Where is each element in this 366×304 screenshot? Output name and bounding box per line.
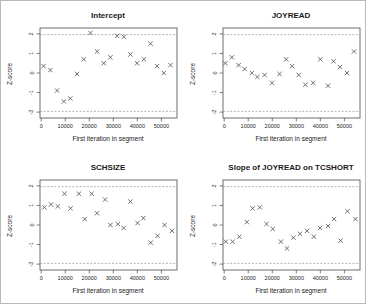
x-axis-label: First iteration in segment	[255, 135, 326, 143]
svg-text:10000: 10000	[58, 123, 73, 129]
svg-text:50000: 50000	[337, 123, 352, 129]
plot-title: JOYREAD	[272, 11, 311, 20]
svg-text:10000: 10000	[241, 275, 256, 281]
svg-text:-2: -2	[212, 262, 218, 267]
plot-frame	[40, 180, 177, 270]
svg-text:2: 2	[29, 32, 35, 35]
svg-text:2: 2	[212, 32, 218, 35]
data-points	[42, 192, 173, 245]
svg-text:-2: -2	[212, 110, 218, 115]
svg-text:0: 0	[40, 275, 43, 281]
data-points	[224, 205, 357, 250]
y-axis-ticks: -2-1012	[212, 32, 224, 114]
svg-text:0: 0	[29, 223, 35, 226]
plot-grid: 01000020000300004000050000 -2-1012 Inter…	[1, 1, 365, 304]
svg-text:1: 1	[29, 52, 35, 55]
svg-text:-1: -1	[212, 90, 218, 95]
svg-text:50000: 50000	[154, 275, 169, 281]
svg-text:1: 1	[29, 204, 35, 207]
svg-text:0: 0	[212, 71, 218, 74]
svg-text:50000: 50000	[337, 275, 352, 281]
plot-schsize: 01000020000300004000050000 -2-1012 SCHSI…	[1, 153, 184, 304]
critical-value-lines	[223, 187, 360, 264]
y-axis-ticks: -2-1012	[29, 32, 41, 114]
plot-frame	[223, 180, 360, 270]
plot-title: Intercept	[91, 11, 125, 20]
x-axis-ticks: 01000020000300004000050000	[223, 118, 352, 129]
plot-title: SCHSIZE	[91, 163, 126, 172]
plot-frame	[40, 28, 177, 118]
svg-text:10000: 10000	[241, 123, 256, 129]
svg-text:40000: 40000	[130, 275, 145, 281]
svg-text:30000: 30000	[106, 275, 121, 281]
critical-value-lines	[40, 35, 177, 112]
plot-joyread: 01000020000300004000050000 -2-1012 JOYRE…	[184, 1, 366, 153]
x-axis-label: First iteration in segment	[72, 135, 143, 143]
y-axis-label: Z-score	[6, 215, 13, 237]
svg-text:-1: -1	[212, 242, 218, 247]
x-axis-label: First iteration in segment	[255, 287, 326, 295]
svg-text:0: 0	[223, 275, 226, 281]
x-axis-ticks: 01000020000300004000050000	[40, 270, 169, 281]
svg-text:30000: 30000	[106, 123, 121, 129]
svg-text:20000: 20000	[82, 123, 97, 129]
svg-text:30000: 30000	[289, 275, 304, 281]
svg-text:1: 1	[212, 52, 218, 55]
svg-text:0: 0	[212, 223, 218, 226]
svg-text:-2: -2	[29, 262, 35, 267]
svg-text:40000: 40000	[313, 123, 328, 129]
plot-slope-joyread-on-tcshort: 01000020000300004000050000 -2-1012 Slope…	[184, 153, 366, 304]
x-axis-ticks: 01000020000300004000050000	[223, 270, 352, 281]
svg-text:30000: 30000	[289, 123, 304, 129]
y-axis-label: Z-score	[189, 215, 196, 237]
data-points	[224, 50, 356, 88]
svg-text:-1: -1	[29, 90, 35, 95]
data-points	[42, 31, 173, 103]
svg-text:-1: -1	[29, 242, 35, 247]
y-axis-ticks: -2-1012	[29, 184, 41, 266]
svg-text:40000: 40000	[130, 123, 145, 129]
svg-text:20000: 20000	[265, 123, 280, 129]
plot-intercept: 01000020000300004000050000 -2-1012 Inter…	[1, 1, 184, 153]
svg-text:0: 0	[223, 123, 226, 129]
svg-text:20000: 20000	[265, 275, 280, 281]
y-axis-ticks: -2-1012	[212, 184, 224, 266]
svg-text:50000: 50000	[154, 123, 169, 129]
svg-text:1: 1	[212, 204, 218, 207]
critical-value-lines	[40, 187, 177, 264]
svg-text:2: 2	[29, 184, 35, 187]
plot-frame	[223, 28, 360, 118]
svg-text:20000: 20000	[82, 275, 97, 281]
x-axis-ticks: 01000020000300004000050000	[40, 118, 169, 129]
plot-title: Slope of JOYREAD on TCSHORT	[228, 163, 353, 172]
y-axis-label: Z-score	[6, 63, 13, 85]
svg-text:0: 0	[29, 71, 35, 74]
svg-text:10000: 10000	[58, 275, 73, 281]
svg-text:0: 0	[40, 123, 43, 129]
critical-value-lines	[223, 35, 360, 112]
svg-text:-2: -2	[29, 110, 35, 115]
svg-text:40000: 40000	[313, 275, 328, 281]
diagnostic-plots-screenshot: 01000020000300004000050000 -2-1012 Inter…	[0, 0, 366, 304]
x-axis-label: First iteration in segment	[72, 287, 143, 295]
y-axis-label: Z-score	[189, 63, 196, 85]
svg-text:2: 2	[212, 184, 218, 187]
